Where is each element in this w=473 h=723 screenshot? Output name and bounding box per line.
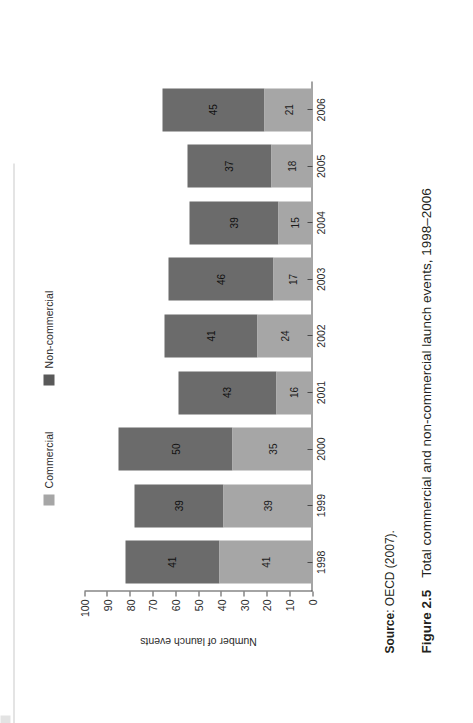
bar-value-label: 46 [215, 273, 226, 284]
value-axis-tick-mark [84, 591, 85, 596]
category-axis-tick-mark [307, 109, 312, 110]
bar-value-label: 21 [283, 104, 294, 115]
bar-column: 3718 [84, 138, 312, 195]
category-axis-label: 2004 [314, 211, 326, 234]
value-axis-tick-label: 50 [192, 599, 204, 611]
stacked-bar: 4521 [162, 88, 312, 131]
bar-value-label: 41 [260, 556, 271, 567]
bar-value-label: 18 [286, 160, 297, 171]
legend-label-commercial: Commercial [42, 431, 54, 488]
stacked-bar: 5035 [118, 427, 312, 470]
category-axis-tick-mark [307, 561, 312, 562]
category-axis-label-cell: 2000 [314, 420, 338, 477]
bar-segment-commercial: 21 [264, 88, 312, 131]
category-axis-tick-mark [307, 335, 312, 336]
category-axis-tick-mark [307, 222, 312, 223]
category-axis-label: 1999 [314, 493, 326, 516]
stacked-bar: 4141 [125, 540, 312, 583]
value-axis-tick-mark [289, 591, 290, 596]
legend-item-commercial: Commercial [42, 431, 54, 505]
value-axis-tick-label: 40 [215, 599, 227, 611]
category-axis-tick-mark [307, 448, 312, 449]
category-axis-label-cell: 1999 [314, 477, 338, 534]
legend-swatch-icon [43, 494, 54, 505]
bar-value-label: 16 [288, 386, 299, 397]
bar-column: 4316 [84, 364, 312, 421]
category-axis-label-cell: 2005 [314, 138, 338, 195]
source-key: Source [382, 612, 396, 653]
category-axis-label-cell: 2002 [314, 307, 338, 364]
category-axis-tick-mark [307, 392, 312, 393]
bar-column: 5035 [84, 420, 312, 477]
value-axis-tick-mark [175, 591, 176, 596]
bar-column: 3939 [84, 477, 312, 534]
bar-value-label: 37 [223, 160, 234, 171]
bar-value-label: 39 [228, 217, 239, 228]
bar-segment-commercial: 17 [273, 257, 312, 300]
value-axis-tick-mark [312, 591, 313, 596]
value-axis-tick-label: 60 [169, 599, 181, 611]
bar-segment-commercial: 39 [223, 484, 312, 527]
bar-column: 4521 [84, 81, 312, 138]
chart-figure: Commercial Non-commercial Number of laun… [84, 81, 346, 653]
bar-value-label: 39 [262, 500, 273, 511]
bar-column: 4617 [84, 251, 312, 308]
category-axis-label-cell: 1998 [314, 533, 338, 590]
category-axis-tick-mark [307, 165, 312, 166]
value-axis-tick-mark [129, 591, 130, 596]
category-axis-label: 2000 [314, 437, 326, 460]
bar-value-label: 39 [173, 500, 184, 511]
value-axis-tick-label: 20 [260, 599, 272, 611]
stacked-bar: 3915 [189, 201, 312, 244]
value-axis-tick-label: 80 [124, 599, 136, 611]
category-axis-label: 2003 [314, 267, 326, 290]
bar-segment-commercial: 41 [219, 540, 312, 583]
y-axis-title-text: Number of launch events [140, 636, 257, 648]
bar-segment-non-commercial: 41 [125, 540, 218, 583]
bar-value-label: 15 [289, 217, 300, 228]
bar-value-label: 24 [279, 330, 290, 341]
value-axis-tick-mark [220, 591, 221, 596]
bar-column: 3915 [84, 194, 312, 251]
figure-number: Figure 2.5 [418, 589, 433, 653]
bar-segment-non-commercial: 50 [118, 427, 232, 470]
bar-value-label: 45 [207, 104, 218, 115]
category-axis-tick-mark [307, 505, 312, 506]
value-axis-tick-mark [266, 591, 267, 596]
category-axis-label: 1998 [314, 550, 326, 573]
bar-series-group: 414139395035431641244617391537184521 [84, 81, 312, 590]
bar-value-label: 41 [205, 330, 216, 341]
bar-value-label: 35 [267, 443, 278, 454]
value-axis-tick-label: 30 [238, 599, 250, 611]
chart-legend: Commercial Non-commercial [42, 290, 54, 505]
bar-segment-non-commercial: 43 [178, 371, 276, 414]
bar-segment-non-commercial: 37 [187, 144, 271, 187]
bar-value-label: 43 [221, 386, 232, 397]
bar-column: 4124 [84, 307, 312, 364]
value-axis-tick-mark [106, 591, 107, 596]
bar-segment-commercial: 24 [257, 314, 312, 357]
stacked-bar: 4316 [178, 371, 313, 414]
scanned-page: Commercial Non-commercial Number of laun… [0, 0, 473, 723]
bar-segment-non-commercial: 41 [164, 314, 257, 357]
bar-segment-commercial: 18 [271, 144, 312, 187]
bar-segment-non-commercial: 46 [168, 257, 273, 300]
value-axis-tick-mark [152, 591, 153, 596]
stacked-bar: 4617 [168, 257, 312, 300]
bar-segment-non-commercial: 39 [134, 484, 223, 527]
y-axis-title: Number of launch events [84, 635, 312, 649]
stacked-bar: 3718 [187, 144, 312, 187]
bar-segment-non-commercial: 39 [189, 201, 278, 244]
value-axis-tick-mark [243, 591, 244, 596]
stacked-bar: 3939 [134, 484, 312, 527]
category-axis-label-cell: 2006 [314, 81, 338, 138]
scan-edge-line [13, 163, 14, 723]
scan-artifact-corner [0, 715, 10, 723]
category-axis-labels: 199819992000200120022003200420052006 [314, 81, 338, 590]
plot-area: Number of launch events 1009080706050403… [84, 81, 312, 591]
category-axis-tick-mark [307, 278, 312, 279]
category-axis-label: 2005 [314, 154, 326, 177]
category-axis-label-cell: 2003 [314, 251, 338, 308]
legend-label-non-commercial: Non-commercial [42, 290, 54, 368]
value-axis-tick-label: 0 [306, 599, 318, 605]
